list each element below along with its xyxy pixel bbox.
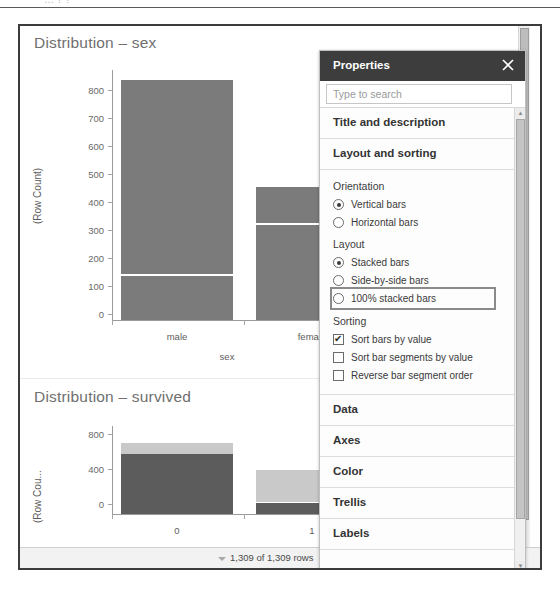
chart1-ytick: 800 [70, 85, 104, 96]
radio-100-percent-stacked-bars[interactable]: 100% stacked bars [333, 290, 493, 307]
layout-and-sorting-section: Orientation Vertical bars Horizontal bar… [320, 170, 516, 395]
checkbox-sort-bar-segments-by-value[interactable]: Sort bar segments by value [333, 349, 516, 366]
search-input[interactable] [326, 84, 512, 104]
chart2-y-axis-title: (Row Cou... [32, 470, 43, 523]
chart1-xtickmark [112, 320, 113, 325]
accordion-trellis[interactable]: Trellis [320, 488, 516, 519]
chart1-ytick: 0 [70, 309, 104, 320]
radio-side-by-side-bars[interactable]: Side-by-side bars [333, 272, 516, 289]
checkbox-label: Sort bars by value [351, 334, 432, 345]
chart1-ytick: 700 [70, 113, 104, 124]
chart1-bar-male-lower [121, 274, 233, 320]
chart1-xtickmark [244, 320, 245, 325]
properties-panel: Properties Title and description Layout … [319, 50, 526, 570]
radio-icon [333, 199, 344, 210]
chart2-y-axis-line [112, 426, 113, 514]
chart2-bar-0-dark [121, 454, 233, 514]
radio-label: Horizontal bars [351, 217, 418, 228]
checkbox-sort-bars-by-value[interactable]: Sort bars by value [333, 331, 516, 348]
accordion-layout-and-sorting[interactable]: Layout and sorting [320, 139, 516, 170]
radio-icon [333, 217, 344, 228]
chart1-bar-male[interactable] [121, 80, 233, 320]
chart1-ytick: 200 [70, 253, 104, 264]
status-rows: 1,309 of 1,309 rows [230, 552, 313, 563]
accordion-label: Color [333, 465, 363, 477]
properties-search-row [320, 81, 525, 108]
properties-header: Properties [320, 51, 525, 81]
chart1-bar-male-divider [121, 274, 233, 276]
chart2-ytick: 800 [70, 429, 104, 440]
checkbox-reverse-bar-segment-order[interactable]: Reverse bar segment order [333, 367, 516, 384]
checkbox-label: Sort bar segments by value [351, 352, 473, 363]
chart1-xtick-label: male [137, 331, 217, 342]
radio-stacked-bars[interactable]: Stacked bars [333, 254, 516, 271]
properties-scrollbar-thumb[interactable] [516, 119, 525, 519]
properties-body: Title and description Layout and sorting… [320, 108, 516, 570]
chart1-ytick: 400 [70, 197, 104, 208]
close-icon[interactable] [500, 57, 516, 73]
sorting-group-label: Sorting [333, 315, 516, 327]
chart2-ytick: 0 [70, 499, 104, 510]
chart1-ytick: 100 [70, 281, 104, 292]
radio-icon [333, 257, 344, 268]
radio-icon [333, 275, 344, 286]
top-ghost-text: … ? ? [44, 0, 71, 5]
radio-label: Vertical bars [351, 199, 406, 210]
chart1-ytick: 300 [70, 225, 104, 236]
top-divider-rule [0, 7, 560, 8]
properties-vertical-scrollbar[interactable]: ▲ ▼ [514, 108, 525, 570]
chart2-xtickmark [112, 514, 113, 519]
top-cutoff-strip: … ? ? [0, 0, 560, 10]
radio-horizontal-bars[interactable]: Horizontal bars [333, 214, 516, 231]
accordion-data[interactable]: Data [320, 395, 516, 426]
accordion-color[interactable]: Color [320, 457, 516, 488]
orientation-group-label: Orientation [333, 180, 516, 192]
accordion-label: Labels [333, 527, 369, 539]
chart2-xtickmark [244, 514, 245, 519]
chart1-ytick: 500 [70, 169, 104, 180]
accordion-label: Data [333, 403, 358, 415]
checkbox-icon [333, 352, 344, 363]
accordion-axes[interactable]: Axes [320, 426, 516, 457]
chart2-bar-0-light [121, 443, 233, 454]
accordion-labels[interactable]: Labels [320, 519, 516, 550]
accordion-label: Title and description [333, 116, 445, 128]
scroll-down-arrow-icon[interactable]: ▼ [515, 561, 526, 570]
chart2-bar-0[interactable] [121, 443, 233, 514]
chart1-bar-male-upper [121, 80, 233, 274]
accordion-title-and-description[interactable]: Title and description [320, 108, 516, 139]
accordion-label: Layout and sorting [333, 147, 437, 159]
chart2-ytick: 400 [70, 464, 104, 475]
chart1-y-axis-line [112, 70, 113, 320]
app-window: Distribution – sex (Row Count) 800 700 6… [18, 24, 542, 570]
properties-title: Properties [333, 59, 390, 71]
radio-icon [333, 293, 344, 304]
chart2-xtick-label: 0 [137, 525, 217, 536]
checkbox-icon [333, 370, 344, 381]
scroll-up-arrow-icon[interactable]: ▲ [515, 108, 526, 118]
chart2-title: Distribution – survived [34, 388, 191, 406]
radio-label: Stacked bars [351, 257, 409, 268]
status-caret-icon[interactable] [218, 557, 226, 561]
radio-label: Side-by-side bars [351, 275, 429, 286]
chart1-title: Distribution – sex [34, 34, 156, 52]
radio-label: 100% stacked bars [351, 293, 436, 304]
chart1-ytick: 600 [70, 141, 104, 152]
checkbox-label: Reverse bar segment order [351, 370, 473, 381]
chart1-x-axis-title: sex [172, 351, 282, 362]
accordion-label: Trellis [333, 496, 366, 508]
accordion-label: Axes [333, 434, 361, 446]
screenshot-root: … ? ? Distribution – sex (Row Count) 800… [0, 0, 560, 596]
layout-group-label: Layout [333, 238, 516, 250]
radio-vertical-bars[interactable]: Vertical bars [333, 196, 516, 213]
chart1-y-axis-title: (Row Count) [32, 168, 43, 224]
checkbox-icon [333, 334, 344, 345]
